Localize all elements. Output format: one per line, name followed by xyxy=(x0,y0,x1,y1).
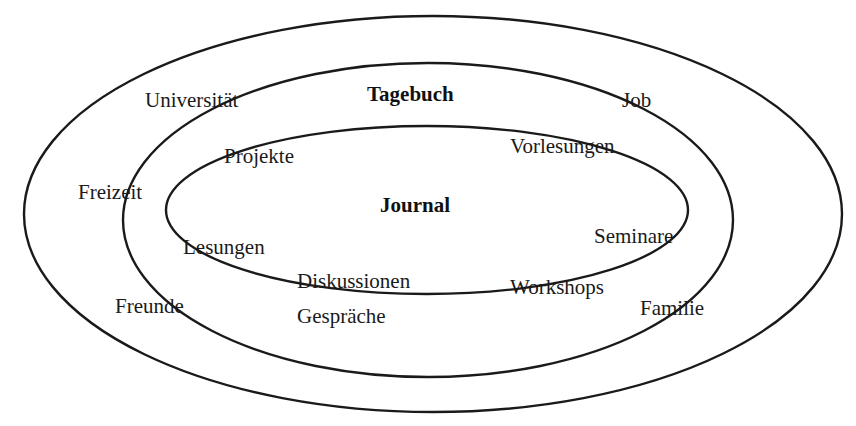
title-journal: Journal xyxy=(380,193,450,217)
label-universitaet: Universität xyxy=(145,88,238,112)
label-workshops: Workshops xyxy=(510,275,604,299)
nested-ellipse-diagram: Tagebuch Journal Universität Job Projekt… xyxy=(0,0,856,426)
label-projekte: Projekte xyxy=(224,144,294,168)
label-job: Job xyxy=(622,88,651,112)
label-freunde: Freunde xyxy=(115,294,184,318)
label-diskussionen: Diskussionen xyxy=(297,269,411,293)
label-familie: Familie xyxy=(640,296,704,320)
label-freizeit: Freizeit xyxy=(78,180,142,204)
label-gespraeche: Gespräche xyxy=(297,304,386,328)
label-seminare: Seminare xyxy=(594,224,673,248)
label-vorlesungen: Vorlesungen xyxy=(510,134,615,158)
label-lesungen: Lesungen xyxy=(183,235,265,259)
title-tagebuch: Tagebuch xyxy=(367,82,454,106)
diagram-canvas: Tagebuch Journal Universität Job Projekt… xyxy=(0,0,856,426)
